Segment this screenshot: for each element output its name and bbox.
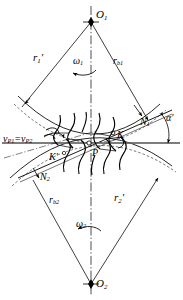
label-center-O2: O2 [96, 278, 107, 290]
label-radius-rb2: rb2 [49, 195, 59, 206]
omega1-rotation-arrow [73, 70, 96, 75]
pitch-point-marker [87, 141, 91, 145]
label-contact-point-K-prime: K′ [49, 152, 58, 162]
label-omega1: ω1 [73, 56, 83, 67]
label-radius-r1-prime: r1′ [33, 52, 43, 64]
label-contact-point-K: K [117, 130, 124, 140]
label-pitch-point-P: P [92, 148, 98, 158]
label-velocity-equality: vP1=vP2 [3, 134, 32, 145]
label-point-N2: N2 [40, 172, 50, 183]
pitch-circle-arc-gear1 [18, 96, 160, 134]
N1-pointer-arrow [134, 105, 142, 116]
label-center-O1: O1 [96, 9, 107, 21]
radius-line-r2-prime [91, 178, 158, 284]
label-radius-rb1: rb1 [113, 56, 123, 67]
contact-point-Kprime-marker [62, 151, 65, 154]
label-omega2: ω2 [76, 219, 86, 230]
label-point-N1: N1 [140, 117, 150, 128]
label-radius-r2-prime: r2′ [114, 192, 124, 204]
radius-line-rb2 [33, 180, 91, 284]
gear-meshing-figure: O1 O2 r1′ rb1 ω1 N1 α′ K P K′ vP1=vP2 N2… [0, 0, 183, 300]
radius-line-rb1 [91, 22, 148, 120]
label-pressure-angle: α′ [166, 113, 173, 123]
